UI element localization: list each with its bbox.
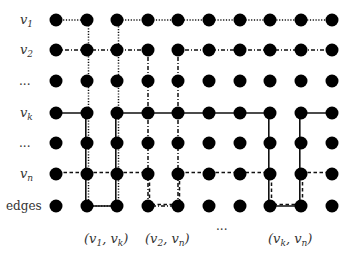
graph-node [142,107,155,120]
graph-node [111,107,124,120]
graph-node [203,107,216,120]
path-vk [55,113,331,206]
row-label-vn: vn [20,166,33,183]
graph-node [203,44,216,57]
graph-node [326,107,339,120]
graph-node [203,137,216,150]
graph-node [81,200,94,213]
graph-node [81,168,94,181]
path-v2 [56,50,332,206]
graph-node [50,44,63,57]
row-label-vk: vk [20,105,33,122]
graph-node [50,14,63,27]
paths-layer [55,20,334,206]
graph-node [295,200,308,213]
graph-node [264,168,277,181]
col-label-ellipsis: ... [216,219,227,233]
graph-node [172,14,185,27]
graph-node [142,168,155,181]
graph-node [326,168,339,181]
graph-node [234,200,247,213]
col-label-v1-vk: (v1, vk) [84,231,128,248]
graph-node [142,14,155,27]
graph-node [203,75,216,88]
graph-node [264,137,277,150]
graph-node [172,107,185,120]
graph-node [50,200,63,213]
graph-node [295,14,308,27]
col-label-vk-vn: (vk, vn) [268,231,312,248]
row-label-v2: v2 [20,42,33,59]
graph-node [326,75,339,88]
graph-node [234,168,247,181]
graph-node [50,137,63,150]
graph-node [264,107,277,120]
graph-node [234,14,247,27]
graph-node [81,44,94,57]
graph-node [234,75,247,88]
path-vn [58,173,334,205]
graph-node [81,137,94,150]
col-label-v2-vn: (v2, vn) [145,231,190,248]
graph-node [264,44,277,57]
row-label-ellipsis-2: ... [19,136,30,150]
row-label-v1: v1 [20,12,33,29]
graph-node [172,137,185,150]
graph-node [234,107,247,120]
column-labels: (v1, vk) (v2, vn) ... (vk, vn) [84,219,312,248]
graph-node [111,168,124,181]
graph-node [81,75,94,88]
graph-node [326,14,339,27]
graph-node [81,14,94,27]
graph-node [295,137,308,150]
graph-node [295,168,308,181]
graph-node [111,200,124,213]
graph-node [295,75,308,88]
graph-node [234,137,247,150]
graph-node [111,137,124,150]
graph-node [142,200,155,213]
graph-node [111,14,124,27]
graph-node [172,75,185,88]
graph-node [50,107,63,120]
graph-node [264,14,277,27]
graph-node [203,168,216,181]
graph-node [142,44,155,57]
graph-node [203,200,216,213]
graph-node [111,44,124,57]
graph-node [172,168,185,181]
row-labels: v1 v2 ... vk ... vn edges [6,12,42,213]
graph-node [234,44,247,57]
graph-node [111,75,124,88]
graph-node [295,44,308,57]
graph-node [203,14,216,27]
graph-node [50,168,63,181]
graph-node [50,75,63,88]
graph-node [172,44,185,57]
graph-node [264,75,277,88]
graph-node [142,75,155,88]
graph-node [172,200,185,213]
row-label-ellipsis-1: ... [19,74,30,88]
row-label-edges: edges [6,199,42,213]
graph-node [326,137,339,150]
graph-diagram: v1 v2 ... vk ... vn edges (v1, vk) (v2, … [0,0,357,254]
graph-node [81,107,94,120]
graph-node [295,107,308,120]
graph-node [326,44,339,57]
graph-node [142,137,155,150]
graph-node [264,200,277,213]
graph-node [326,200,339,213]
